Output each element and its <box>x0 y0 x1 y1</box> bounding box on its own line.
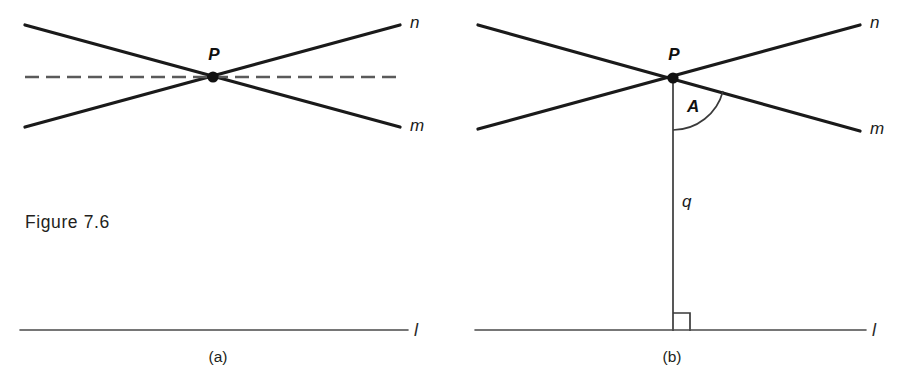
panel-b-caption: (b) <box>663 348 682 365</box>
panel-a-point-p-dot <box>207 71 218 82</box>
panel-a-group: P n m l (a) <box>20 13 424 365</box>
panel-a-caption: (a) <box>209 348 228 365</box>
panel-b-point-p-label: P <box>668 45 680 64</box>
figure-svg-canvas: P n m l (a) Figure 7.6 P A q n m l <box>0 0 909 386</box>
panel-b-segment-label-q: q <box>682 192 692 211</box>
panel-b-group: P A q n m l (b) <box>475 13 884 365</box>
panel-b-angle-label-a: A <box>686 97 699 116</box>
panel-a-label-l: l <box>414 320 419 340</box>
panel-b-label-l: l <box>872 320 877 340</box>
figure-container: P n m l (a) Figure 7.6 P A q n m l <box>0 0 909 386</box>
panel-a-label-m: m <box>410 116 424 135</box>
panel-b-point-p-dot <box>667 72 678 83</box>
panel-a-label-n: n <box>410 13 419 32</box>
panel-b-label-m: m <box>870 119 884 138</box>
panel-b-label-n: n <box>870 13 879 32</box>
figure-caption: Figure 7.6 <box>25 212 110 232</box>
panel-a-point-p-label: P <box>208 45 220 64</box>
panel-b-right-angle-marker <box>673 313 690 331</box>
